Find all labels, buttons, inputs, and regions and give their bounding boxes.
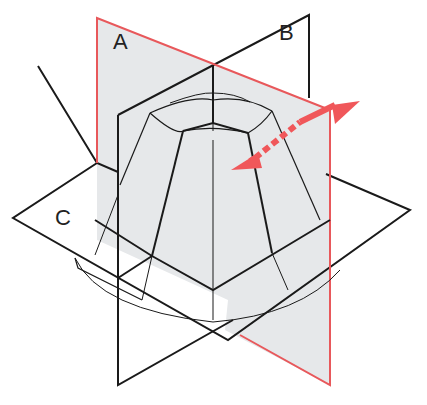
three-plane-diagram: [0, 0, 427, 405]
arrowhead-right-icon: [332, 101, 360, 124]
plane-c-label: C: [55, 205, 71, 231]
plane-a-label: A: [113, 29, 128, 55]
plane-b-label: B: [279, 20, 294, 46]
